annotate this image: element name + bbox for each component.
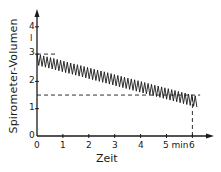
x-tick-3: 3 [112,141,118,150]
y-unit-label: l [30,34,33,43]
x-tick-0: 0 [34,141,40,150]
y-axis-arrow-icon [35,9,40,17]
axis-ticks [35,27,192,138]
y-tick-2: 2 [29,76,35,85]
x-tick-6: 6 [189,141,195,150]
y-tick-4: 4 [29,22,35,31]
x-axis-label: Zeit [96,152,118,165]
x-tick-2: 2 [86,141,92,150]
x-tick-4: 4 [138,141,144,150]
y-tick-3: 3 [29,48,35,57]
y-axis-label: Spirometer-Volumen [7,24,20,134]
y-tick-0: 0 [29,131,35,140]
x-tick-5: 5 min [163,141,189,150]
breathing-trace [37,54,197,107]
x-tick-1: 1 [60,141,66,150]
y-tick-1: 1 [29,103,35,112]
x-axis-arrow-icon [206,134,214,139]
